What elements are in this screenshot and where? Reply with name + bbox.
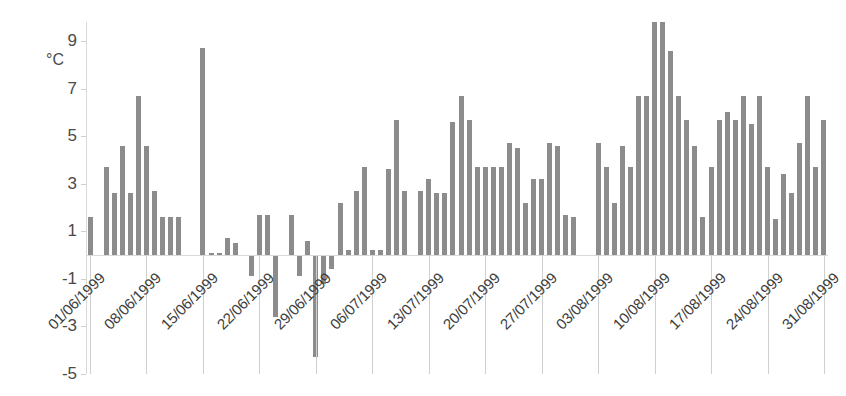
bar <box>402 191 407 255</box>
bar <box>789 193 794 255</box>
bar <box>450 122 455 255</box>
temperature-bar-chart: 97531-1-3-5 °C 01/06/199908/06/199915/06… <box>0 0 846 396</box>
bar <box>700 217 705 255</box>
y-tick-label: 5 <box>68 126 77 146</box>
bar <box>104 167 109 255</box>
bar <box>547 143 552 255</box>
bar <box>563 215 568 255</box>
bar <box>620 146 625 255</box>
bar <box>426 179 431 255</box>
bar <box>539 179 544 255</box>
bar <box>305 241 310 255</box>
bar <box>483 167 488 255</box>
bar <box>273 255 278 317</box>
bar <box>676 96 681 255</box>
bar <box>652 22 657 255</box>
bar <box>709 167 714 255</box>
bar <box>329 255 334 269</box>
bar <box>531 179 536 255</box>
bar <box>467 120 472 256</box>
bar <box>604 167 609 255</box>
bar <box>136 96 141 255</box>
bar <box>507 143 512 255</box>
bar <box>200 48 205 255</box>
bar <box>418 191 423 255</box>
bar <box>144 146 149 255</box>
bar <box>442 193 447 255</box>
bar <box>499 167 504 255</box>
y-tick-mark <box>81 231 86 232</box>
bar <box>781 174 786 255</box>
y-tick-label: 1 <box>68 221 77 241</box>
y-tick-label: 7 <box>68 79 77 99</box>
bar <box>88 217 93 255</box>
bar <box>265 215 270 255</box>
bar <box>523 203 528 255</box>
bar <box>225 238 230 255</box>
y-tick-label: -5 <box>62 364 77 384</box>
bar <box>765 167 770 255</box>
bar <box>749 124 754 255</box>
bar <box>797 143 802 255</box>
bar <box>684 120 689 256</box>
bar <box>668 51 673 256</box>
bar <box>741 96 746 255</box>
bar <box>120 146 125 255</box>
bar <box>128 193 133 255</box>
bar <box>475 167 480 255</box>
y-tick-mark <box>81 326 86 327</box>
bar <box>249 255 254 276</box>
bar <box>160 217 165 255</box>
bar <box>459 96 464 255</box>
bar <box>491 167 496 255</box>
bar <box>773 219 778 255</box>
y-tick-mark <box>81 89 86 90</box>
bar <box>813 167 818 255</box>
bar <box>434 193 439 255</box>
bar <box>692 146 697 255</box>
y-tick-label: 3 <box>68 174 77 194</box>
bar <box>257 215 262 255</box>
bar <box>515 148 520 255</box>
bar <box>733 120 738 256</box>
bar <box>289 215 294 255</box>
bar <box>233 243 238 255</box>
y-tick-label: 9 <box>68 31 77 51</box>
y-tick-mark <box>81 184 86 185</box>
bar <box>821 120 826 256</box>
bar <box>555 146 560 255</box>
bar <box>386 169 391 255</box>
bar <box>644 96 649 255</box>
bar <box>596 143 601 255</box>
bar <box>112 193 117 255</box>
bar <box>612 203 617 255</box>
y-tick-mark <box>81 41 86 42</box>
bar <box>805 96 810 255</box>
bar <box>394 120 399 256</box>
bar <box>152 191 157 255</box>
bar <box>757 96 762 255</box>
bar <box>660 22 665 255</box>
y-tick-label: -1 <box>62 269 77 289</box>
bar <box>717 120 722 256</box>
y-tick-mark <box>81 374 86 375</box>
bar <box>725 112 730 255</box>
y-tick-mark <box>81 136 86 137</box>
bar <box>354 191 359 255</box>
bar <box>628 167 633 255</box>
zero-baseline <box>86 255 828 256</box>
bar <box>168 217 173 255</box>
bar <box>362 167 367 255</box>
bar <box>636 96 641 255</box>
bar <box>297 255 302 276</box>
bar <box>176 217 181 255</box>
y-axis-unit-label: °C <box>46 51 64 69</box>
bar <box>571 217 576 255</box>
bar <box>338 203 343 255</box>
